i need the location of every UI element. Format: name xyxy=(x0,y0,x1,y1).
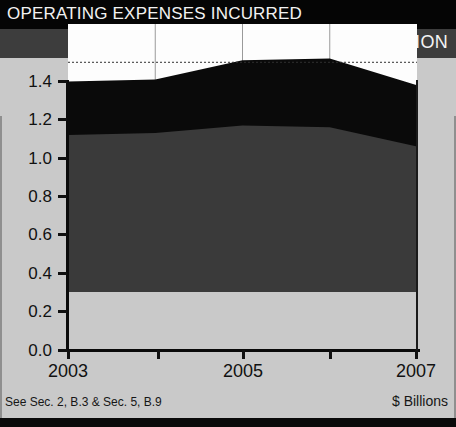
y-tick-1-2 xyxy=(58,118,67,121)
x-axis-label-2007: 2007 xyxy=(376,362,456,380)
plot-right-border xyxy=(416,80,418,352)
units-note: $ Billions xyxy=(392,394,448,409)
frame-bottom xyxy=(0,418,456,427)
page-title: OPERATING EXPENSES INCURRED xyxy=(7,4,302,24)
y-tick-0-6 xyxy=(58,233,67,236)
stacked-area-svg xyxy=(68,24,417,292)
x-tick-2005 xyxy=(242,350,245,359)
y-axis-label-0-4: 0.4 xyxy=(0,265,52,282)
y-tick-0-4 xyxy=(58,272,67,275)
plot-area xyxy=(68,24,417,292)
y-axis-label-0-8: 0.8 xyxy=(0,188,52,205)
y-axis-label-1-4: 1.4 xyxy=(0,73,52,90)
y-axis-label-1-0: 1.0 xyxy=(0,150,52,167)
y-tick-0-8 xyxy=(58,195,67,198)
y-tick-1-0 xyxy=(58,157,67,160)
y-axis-label-0-2: 0.2 xyxy=(0,303,52,320)
x-tick-2003 xyxy=(67,350,70,359)
x-axis-label-2003: 2003 xyxy=(28,362,108,380)
series-area-agent-retention xyxy=(68,125,417,292)
y-tick-0-2 xyxy=(58,310,67,313)
y-axis-label-0-0: 0.0 xyxy=(0,342,52,359)
x-axis-label-2005: 2005 xyxy=(203,362,283,380)
chart-screenshot: OPERATING EXPENSES INCURRED AGENT RETENT… xyxy=(0,0,456,427)
x-tick-2004 xyxy=(157,350,160,359)
y-tick-1-4 xyxy=(58,80,67,83)
source-note: See Sec. 2, B.3 & Sec. 5, B.9 xyxy=(5,396,162,409)
y-axis-label-1-2: 1.2 xyxy=(0,111,52,128)
y-axis-label-0-6: 0.6 xyxy=(0,226,52,243)
x-tick-2007 xyxy=(415,350,418,359)
y-tick-0-0 xyxy=(58,349,67,352)
x-tick-2006 xyxy=(329,350,332,359)
